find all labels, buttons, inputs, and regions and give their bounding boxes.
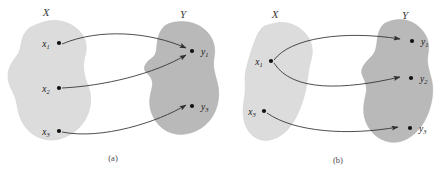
panel-a-codomain-label: Y <box>180 8 188 20</box>
panel-a-dot-x1 <box>57 41 61 45</box>
panel-a-dot-y3 <box>190 104 194 108</box>
panel-b-domain-blob <box>243 22 312 140</box>
panel-b-dot-y3 <box>408 126 412 130</box>
panel-a-dot-x2 <box>57 86 61 90</box>
panel-b: X Y x1 x3 y1 y2 <box>243 8 433 165</box>
panel-a-dot-y1 <box>190 49 194 53</box>
panel-b-codomain-label: Y <box>402 9 410 21</box>
panel-a-domain-label: X <box>42 6 51 18</box>
panel-b-label-y3: y3 <box>418 124 427 135</box>
panel-b-dot-x1 <box>269 59 273 63</box>
panel-b-domain-label: X <box>271 8 280 20</box>
panel-b-dot-y2 <box>409 76 413 80</box>
panel-a-caption: (a) <box>108 153 118 163</box>
panel-b-dot-x3 <box>262 109 266 113</box>
set-mapping-figure: X Y x1 x2 x3 y1 <box>0 0 441 179</box>
panel-b-caption: (b) <box>333 155 343 165</box>
panel-a-codomain-blob <box>144 22 218 135</box>
panel-b-dot-y1 <box>410 39 414 43</box>
panel-a: X Y x1 x2 x3 y1 <box>8 6 219 163</box>
panel-a-dot-x3 <box>57 129 61 133</box>
